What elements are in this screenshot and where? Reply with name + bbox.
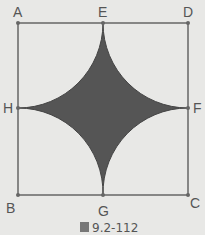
label-e: E xyxy=(98,4,107,20)
label-d: D xyxy=(183,4,193,20)
geometry-figure: A E D H F B G C 9.2-112 xyxy=(0,0,205,235)
label-g: G xyxy=(98,203,109,219)
caption-number: 9.2-112 xyxy=(92,221,138,235)
label-b: B xyxy=(6,200,15,216)
label-h: H xyxy=(3,100,13,116)
label-a: A xyxy=(13,4,23,20)
shaded-region xyxy=(18,23,188,195)
caption-icon xyxy=(80,222,89,232)
label-f: F xyxy=(193,100,202,116)
label-c: C xyxy=(190,195,200,211)
